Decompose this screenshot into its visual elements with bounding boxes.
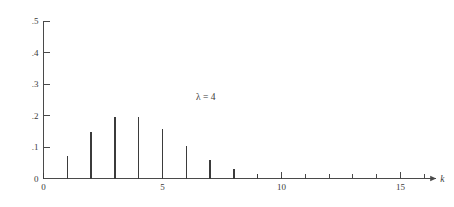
poisson-pmf-chart: 0.1.2.3.4.5 k051015 λ = 4 <box>0 0 454 207</box>
x-axis-arrow-icon <box>430 176 436 182</box>
x-axis-tick-label: 15 <box>396 182 406 192</box>
x-axis-tick-label: 0 <box>41 182 46 192</box>
y-axis-tick-label: 0 <box>34 174 39 184</box>
y-axis-tick-label: .4 <box>32 48 39 58</box>
lambda-annotation: λ = 4 <box>196 92 216 102</box>
y-axis-tick-label: .3 <box>32 79 39 89</box>
x-axis-tick-label: 10 <box>277 182 287 192</box>
y-axis-tick-label: .5 <box>32 16 39 26</box>
y-axis: 0.1.2.3.4.5 <box>32 16 50 184</box>
x-axis-name-label: k <box>440 174 445 184</box>
lambda-annotation-label: λ = 4 <box>196 92 216 102</box>
y-axis-tick-label: .2 <box>32 111 39 121</box>
chart-canvas: 0.1.2.3.4.5 k051015 λ = 4 <box>0 0 454 207</box>
y-axis-tick-label: .1 <box>32 142 39 152</box>
x-axis: k051015 <box>41 172 445 192</box>
x-axis-tick-label: 5 <box>160 182 165 192</box>
stem-series <box>44 117 306 178</box>
